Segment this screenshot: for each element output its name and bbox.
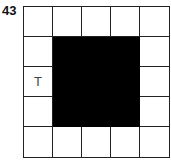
grid-cell[interactable] [111, 127, 140, 157]
grid-cell[interactable] [140, 67, 169, 97]
grid-cell[interactable] [24, 37, 53, 67]
black-cell [82, 37, 111, 67]
black-cell [111, 67, 140, 97]
black-cell [111, 37, 140, 67]
grid-cell[interactable]: T [24, 67, 53, 97]
grid-cell[interactable] [53, 7, 82, 37]
black-cell [53, 37, 82, 67]
black-cell [82, 97, 111, 127]
grid-cell[interactable] [82, 7, 111, 37]
grid-cell[interactable] [140, 97, 169, 127]
puzzle-number: 43 [2, 4, 16, 17]
grid-cell[interactable] [24, 7, 53, 37]
grid-cell[interactable] [140, 127, 169, 157]
black-cell [82, 67, 111, 97]
cell-letter: T [34, 74, 42, 89]
black-cell [53, 67, 82, 97]
grid-cell[interactable] [111, 7, 140, 37]
grid-cell[interactable] [140, 37, 169, 67]
grid-cell[interactable] [24, 97, 53, 127]
grid-cell[interactable] [140, 7, 169, 37]
black-cell [53, 97, 82, 127]
crossword-grid: T [23, 6, 170, 158]
grid-cell[interactable] [53, 127, 82, 157]
black-cell [111, 97, 140, 127]
grid-cell[interactable] [82, 127, 111, 157]
grid-cell[interactable] [24, 127, 53, 157]
